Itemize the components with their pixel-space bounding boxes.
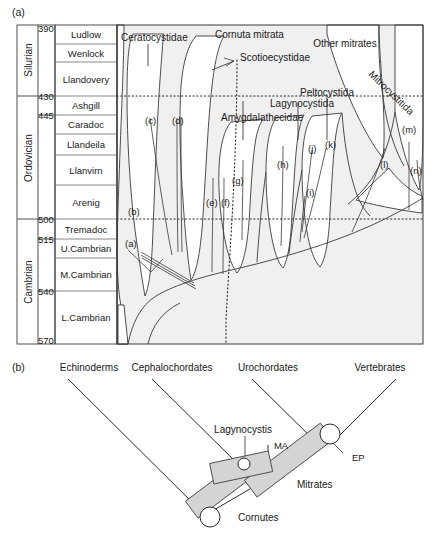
panel-b-branches bbox=[68, 379, 396, 516]
panel-b-tag: (b) bbox=[12, 361, 25, 373]
label-cephalochordates: Cephalochordates bbox=[131, 362, 212, 373]
stage-label-caradoc: Caradoc bbox=[68, 119, 104, 130]
label-vertebrates: Vertebrates bbox=[354, 362, 405, 373]
axis-tick-390: 390 bbox=[38, 23, 54, 34]
taxon-label-amygdalathecidae: Amygdalathecidae bbox=[221, 112, 304, 123]
lineage-letter-j: (j) bbox=[308, 143, 316, 154]
panel-b: (b) Echinoderms Cephalochordates Urochor… bbox=[12, 361, 406, 527]
taxon-label-lagynocystida: Lagynocystida bbox=[270, 98, 334, 109]
axis-tick-570: 570 bbox=[38, 335, 54, 346]
lineage-letter-h: (h) bbox=[277, 159, 289, 170]
axis-tick-430: 430 bbox=[38, 91, 54, 102]
period-labels: Silurian Ordovician Cambrian bbox=[23, 43, 34, 303]
lineage-letter-e: (e) bbox=[206, 197, 218, 208]
axis-tick-540: 540 bbox=[38, 286, 54, 297]
taxon-label-other-mitrates-1: Other mitrates bbox=[313, 38, 376, 49]
figure-root: (a) bbox=[0, 0, 432, 536]
lineage-letter-c: (c) bbox=[145, 115, 156, 126]
branch-vertebrates bbox=[340, 379, 396, 435]
taxon-label-scotioecystidae: Scotioecystidae bbox=[240, 52, 310, 63]
node-basal bbox=[200, 507, 220, 527]
node-ep bbox=[320, 424, 340, 444]
lineage-letter-f: (f) bbox=[221, 197, 230, 208]
branch-echinoderms bbox=[68, 379, 206, 516]
period-label-ordovician: Ordovician bbox=[23, 134, 34, 182]
stage-label-l-cambrian: L.Cambrian bbox=[61, 312, 110, 323]
panel-a-tag: (a) bbox=[12, 6, 25, 18]
stage-label-llandeila: Llandeila bbox=[67, 139, 106, 150]
stage-label-llanvirn: Llanvirn bbox=[69, 165, 102, 176]
label-mitrates: Mitrates bbox=[297, 479, 333, 490]
label-lagynocystis: Lagynocystis bbox=[214, 424, 272, 435]
lineage-letter-b: (b) bbox=[128, 206, 140, 217]
taxon-label-ceratocystidae: Ceratocystidae bbox=[121, 32, 188, 43]
lineage-letter-n: (n) bbox=[410, 165, 422, 176]
branch-cephalochordates bbox=[152, 379, 240, 466]
lineage-letter-a: (a) bbox=[125, 238, 137, 249]
stage-column-box bbox=[55, 25, 117, 344]
node-lagynocystis bbox=[238, 458, 250, 470]
lineage-letter-k: (k) bbox=[325, 139, 336, 150]
stage-label-wenlock: Wenlock bbox=[68, 48, 105, 59]
lineage-letter-i: (i) bbox=[306, 187, 314, 198]
label-ma: MA bbox=[274, 440, 289, 451]
leader-ep bbox=[333, 443, 343, 453]
stage-label-m-cambrian: M.Cambrian bbox=[60, 269, 112, 280]
lineage-letter-l: (l) bbox=[380, 159, 388, 170]
stage-label-ludlow: Ludlow bbox=[71, 29, 101, 40]
figure-svg: (a) bbox=[0, 0, 432, 536]
label-ep: EP bbox=[352, 452, 365, 463]
axis-tick-500: 500 bbox=[38, 214, 54, 225]
lineage-letter-d: (d) bbox=[172, 115, 184, 126]
stage-label-ashgill: Ashgill bbox=[72, 100, 100, 111]
axis-numbers: 390 430 445 500 515 540 570 bbox=[38, 23, 54, 346]
panel-b-bars bbox=[185, 423, 333, 518]
lineage-letter-g: (g) bbox=[232, 175, 244, 186]
taxon-label-cornuta-mitrata: Cornuta mitrata bbox=[215, 29, 284, 40]
stage-label-arenig: Arenig bbox=[72, 197, 99, 208]
panel-a: (a) bbox=[12, 6, 423, 346]
stage-label-u-cambrian: U.Cambrian bbox=[61, 243, 112, 254]
label-urochordates: Urochordates bbox=[238, 362, 298, 373]
axis-tick-445: 445 bbox=[38, 110, 54, 121]
taxon-label-peltocystida: Peltocystida bbox=[300, 87, 354, 98]
stage-label-llandovery: Llandovery bbox=[63, 74, 110, 85]
lineage-letter-m: (m) bbox=[402, 124, 416, 135]
panel-b-top-labels: Echinoderms Cephalochordates Urochordate… bbox=[60, 362, 406, 373]
axis-tick-515: 515 bbox=[38, 234, 54, 245]
label-echinoderms: Echinoderms bbox=[60, 362, 118, 373]
period-label-silurian: Silurian bbox=[23, 43, 34, 76]
stage-labels: Ludlow Wenlock Llandovery Ashgill Carado… bbox=[60, 29, 112, 323]
label-cornutes: Cornutes bbox=[238, 512, 279, 523]
period-label-cambrian: Cambrian bbox=[23, 260, 34, 303]
stage-label-tremadoc: Tremadoc bbox=[65, 224, 108, 235]
